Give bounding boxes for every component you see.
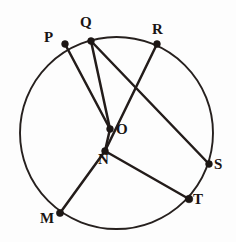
vertex-label-t: T <box>193 192 203 207</box>
vertex-label-n: N <box>98 152 109 167</box>
vertex-dot-q <box>88 38 95 45</box>
vertex-dot-s <box>206 161 213 168</box>
segment-q-o <box>91 41 110 129</box>
vertex-dot-p <box>62 41 69 48</box>
vertex-label-m: M <box>40 211 54 226</box>
vertex-label-p: P <box>44 30 53 45</box>
vertex-dot-t <box>185 195 193 203</box>
vertex-dot-r <box>154 41 161 48</box>
segment-p-o <box>65 44 110 129</box>
vertex-dot-m <box>56 209 63 216</box>
geometry-figure: P Q R S T M O N <box>0 0 236 242</box>
vertex-label-q: Q <box>80 15 92 30</box>
vertex-dot-o <box>107 126 114 133</box>
segment-n-t <box>105 151 189 199</box>
vertex-label-s: S <box>214 157 223 172</box>
segment-r-n <box>105 44 157 151</box>
vertex-label-o: O <box>116 122 128 137</box>
vertex-label-r: R <box>152 22 163 37</box>
